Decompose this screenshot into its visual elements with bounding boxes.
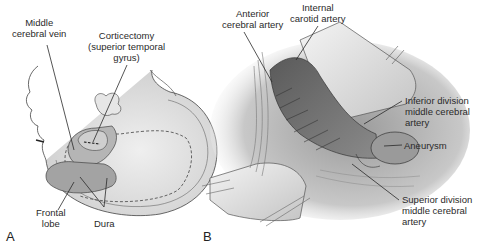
panel-a-drawing <box>26 66 217 216</box>
panel-letter-a: A <box>6 229 15 244</box>
face-profile <box>26 66 46 160</box>
label-internal-carotid-artery: Internal carotid artery <box>290 2 345 24</box>
label-anterior-cerebral-artery: Anterior cerebral artery <box>222 8 283 30</box>
label-superior-division-mca: Superior division middle cerebral artery <box>402 194 472 227</box>
label-corticectomy: Corticectomy (superior temporal gyrus) <box>88 30 165 63</box>
figure: Middle cerebral vein Corticectomy (super… <box>0 0 485 248</box>
label-middle-cerebral-vein: Middle cerebral vein <box>12 17 66 39</box>
panel-letter-b: B <box>203 229 212 244</box>
label-inferior-division-mca: Inferior division middle cerebral artery <box>405 95 470 128</box>
ear <box>95 93 121 115</box>
label-frontal-lobe: Frontal lobe <box>36 207 66 229</box>
leader-middle-cerebral-vein <box>47 45 74 150</box>
label-aneurysm: Aneurysm <box>404 140 447 151</box>
label-dura: Dura <box>94 218 115 229</box>
lower-retractor <box>210 163 306 221</box>
